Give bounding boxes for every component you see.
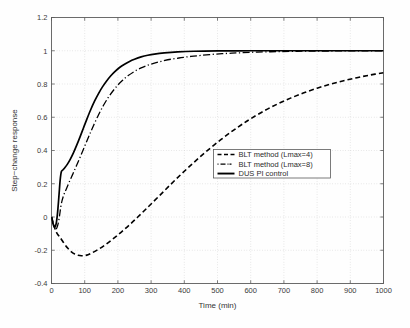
y-tick-label: -0.2 bbox=[35, 246, 48, 255]
step-change-response-chart: 01002003004005006007008009001000 -0.4-0.… bbox=[0, 0, 410, 328]
chart-legend: BLT method (Lmax=4)BLT method (Lmax=8)DU… bbox=[214, 150, 331, 179]
x-tick-label: 500 bbox=[211, 286, 224, 295]
x-tick-label: 400 bbox=[178, 286, 191, 295]
x-tick-label: 700 bbox=[278, 286, 291, 295]
y-tick-label: 1 bbox=[43, 47, 47, 56]
x-tick-label: 900 bbox=[344, 286, 357, 295]
y-tick-label: 0.6 bbox=[37, 113, 47, 122]
y-tick-label: 0.2 bbox=[37, 180, 47, 189]
figure-container: 01002003004005006007008009001000 -0.4-0.… bbox=[0, 0, 410, 328]
x-tick-label: 100 bbox=[78, 286, 91, 295]
y-tick-label: 0 bbox=[43, 213, 47, 222]
legend-label-1: BLT method (Lmax=8) bbox=[239, 160, 314, 169]
x-tick-label: 800 bbox=[311, 286, 324, 295]
y-tick-label: 0.8 bbox=[37, 80, 47, 89]
y-tick-label: -0.4 bbox=[35, 279, 48, 288]
y-tick-label: 0.4 bbox=[37, 146, 47, 155]
y-tick-label: 1.2 bbox=[37, 13, 47, 22]
x-tick-label: 0 bbox=[49, 286, 53, 295]
x-tick-label: 200 bbox=[112, 286, 125, 295]
x-tick-label: 1000 bbox=[375, 286, 392, 295]
figure-background bbox=[0, 0, 410, 328]
legend-label-0: BLT method (Lmax=4) bbox=[239, 150, 314, 159]
x-tick-label: 600 bbox=[244, 286, 257, 295]
y-axis-title: Step−change response bbox=[10, 109, 19, 192]
x-axis-title: Time (min) bbox=[199, 301, 237, 310]
legend-label-2: DUS PI control bbox=[239, 169, 289, 178]
x-tick-label: 300 bbox=[145, 286, 158, 295]
